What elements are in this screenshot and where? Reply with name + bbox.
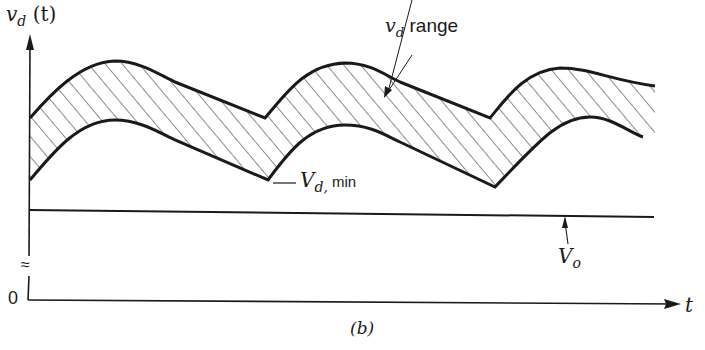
vd-min-label: Vd, min bbox=[300, 168, 356, 195]
vd-range-label: vd range bbox=[385, 14, 458, 40]
axis-break-symbol: ≈ bbox=[21, 256, 30, 274]
x-axis bbox=[28, 299, 681, 309]
x-axis-label: t bbox=[685, 293, 693, 317]
figure-caption: (b) bbox=[350, 318, 374, 338]
origin-label: 0 bbox=[8, 288, 18, 309]
vo-level-line bbox=[29, 210, 654, 217]
vo-label: Vo bbox=[558, 244, 581, 271]
y-axis-label: vd (t) bbox=[6, 2, 56, 29]
vo-pointer-arrow bbox=[562, 216, 568, 244]
